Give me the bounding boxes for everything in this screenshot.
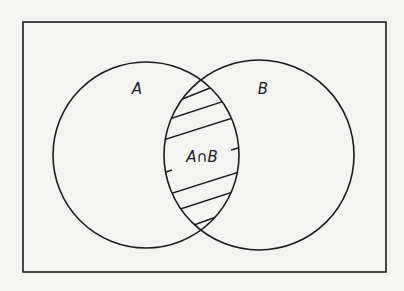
set-a-label: A [131,80,142,98]
venn-diagram: A B A∩B [0,0,404,291]
set-b-label: B [258,80,268,98]
intersection-label: A∩B [185,148,218,166]
